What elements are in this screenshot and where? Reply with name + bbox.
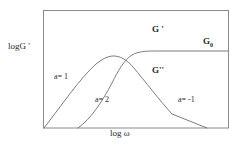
figure-canvas: logG ' log ω G ' G0 G'' a= 1 a= 2 a= -1 <box>0 0 243 148</box>
slope-two-label: a= 2 <box>95 96 109 104</box>
slope-negative-one-label: a= -1 <box>178 96 195 104</box>
loss-modulus-curve <box>44 56 207 128</box>
slope-one-label: a= 1 <box>54 73 68 81</box>
x-axis-label: log ω <box>110 129 130 138</box>
plateau-modulus-label: G0 <box>203 37 213 48</box>
plateau-modulus-base: G <box>203 36 210 46</box>
plateau-modulus-subscript: 0 <box>210 42 213 48</box>
loss-modulus-label: G'' <box>152 66 164 75</box>
plot-frame <box>44 11 229 129</box>
plot-area <box>0 0 243 148</box>
storage-modulus-curve <box>78 51 228 128</box>
storage-modulus-label: G ' <box>152 25 164 34</box>
y-axis-label: logG ' <box>8 42 30 51</box>
